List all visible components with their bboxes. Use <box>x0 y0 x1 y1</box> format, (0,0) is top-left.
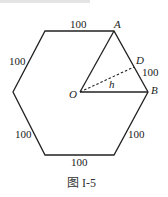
figure-caption: 图 I-5 <box>67 176 96 190</box>
height-OD-dashed <box>80 67 134 92</box>
height-label-h: h <box>109 78 115 90</box>
point-label-D: D <box>135 54 144 66</box>
edge-label-lower-right: 100 <box>128 128 145 140</box>
edge-label-bottom: 100 <box>71 156 88 168</box>
edge-label-upper-right: 100 <box>142 66 159 78</box>
point-label-B: B <box>151 84 158 96</box>
point-label-O: O <box>69 88 77 100</box>
point-label-A: A <box>113 18 121 30</box>
edge-label-top: 100 <box>70 18 87 30</box>
edge-label-lower-left: 100 <box>15 128 32 140</box>
edge-label-upper-left: 100 <box>9 55 26 67</box>
hexagon-diagram: 100 100 100 100 100 100 A B O D h 图 I-5 <box>0 0 168 197</box>
